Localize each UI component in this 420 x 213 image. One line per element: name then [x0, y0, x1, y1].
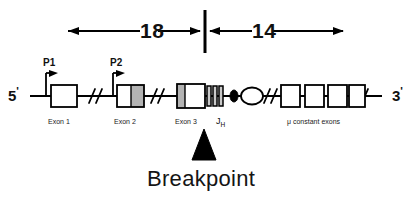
breakpoint-arrowhead: [192, 129, 216, 160]
strand-5prime-label: 5': [8, 85, 19, 104]
jh-label: JH: [216, 116, 225, 128]
exon-3-box-shaded: [177, 84, 185, 108]
exon-2-box-group: [117, 85, 144, 107]
jh-bar-2: [213, 86, 217, 106]
promoter-p2-label: P2: [110, 57, 122, 68]
promoter-p1-label: P1: [43, 57, 55, 68]
jh-bar-3: [219, 86, 223, 106]
distance-left-arrowhead-inner: [190, 27, 201, 35]
mu-exon-box-1: [281, 85, 300, 107]
promoter-p2-arrowhead: [116, 70, 125, 77]
switch-region-oval: [241, 88, 263, 105]
distance-left-arrowhead: [68, 27, 79, 35]
enhancer-diamond: [230, 90, 238, 102]
strand-3prime-label: 3': [392, 85, 403, 104]
switch-oval-group: [241, 88, 263, 105]
breakpoint-arrowhead-group: [192, 129, 216, 160]
exon-1-label: Exon 1: [48, 118, 70, 125]
mu-exon-box-4: [349, 85, 365, 107]
distance-right-label: 14: [252, 19, 276, 43]
exon-1-box: [51, 85, 77, 107]
exon-2-box-light: [117, 85, 131, 107]
figure-canvas: 18 14 5' 3' P1 P2 Exon 1 Exon 2 Exon 3 J…: [0, 0, 420, 213]
exon-3-box-light: [185, 84, 205, 108]
mu-exon-box-2: [305, 85, 324, 107]
measurement-arrows-group: [68, 10, 344, 53]
mu-constant-exons-group: [281, 85, 365, 107]
distance-right-arrowhead-inner: [209, 27, 220, 35]
exon-2-label: Exon 2: [114, 118, 136, 125]
breakpoint-title: Breakpoint: [147, 166, 255, 192]
enhancer-diamond-group: [230, 90, 238, 102]
mu-exon-box-3: [328, 85, 347, 107]
exon-1-box-group: [51, 85, 77, 107]
exon-3-label: Exon 3: [175, 118, 197, 125]
jh-segments-group: [207, 86, 223, 106]
strand-3prime-prime: ': [400, 85, 403, 97]
promoter-p1-arrowhead: [49, 70, 58, 77]
strand-5prime-prime: ': [16, 85, 19, 97]
jh-bar-1: [207, 86, 211, 106]
distance-right-arrowhead: [333, 27, 344, 35]
jh-label-subscript: H: [221, 121, 226, 128]
mu-constant-exons-label: μ constant exons: [287, 118, 340, 125]
distance-left-label: 18: [140, 19, 164, 43]
exon-2-box-shaded: [131, 85, 144, 107]
exon-3-box-group: [177, 84, 205, 108]
